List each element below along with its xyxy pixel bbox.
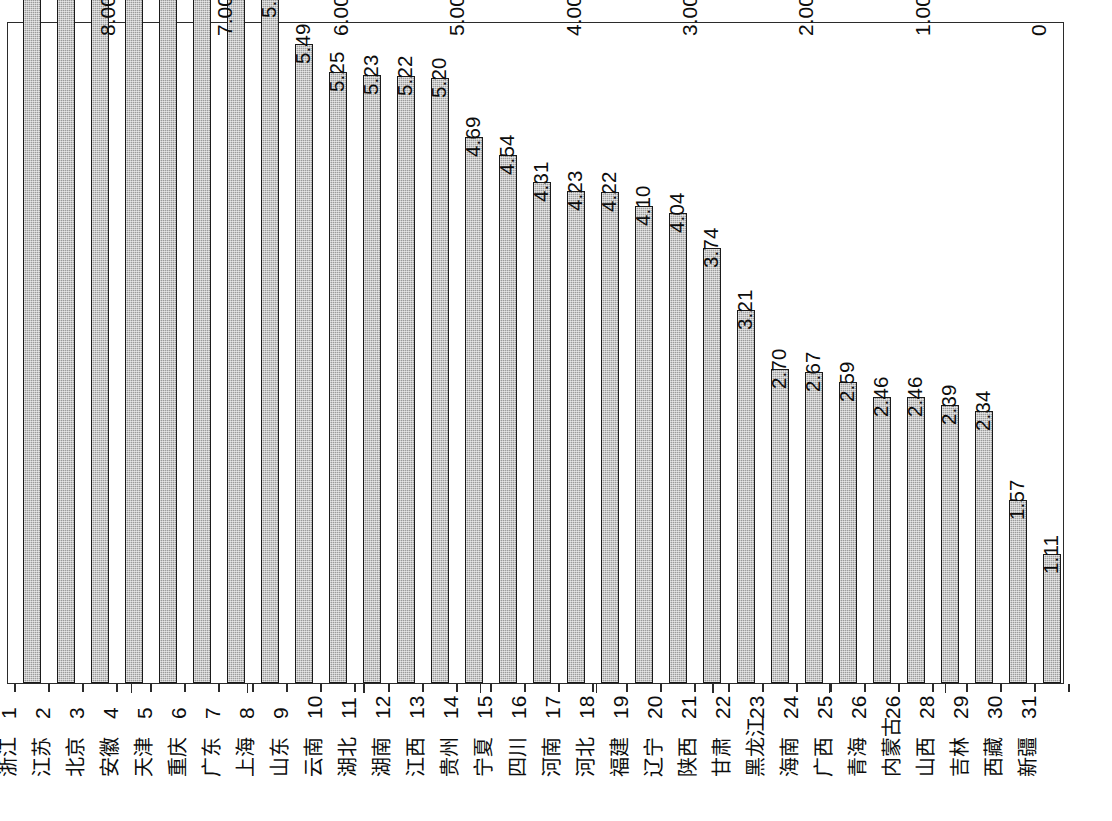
value-axis-tick-dash (829, 684, 831, 693)
category-rank-label: 21 (677, 696, 701, 719)
category-tick (490, 684, 492, 692)
category-rank-label: 5 (133, 707, 157, 719)
value-axis-label: 1.00 (911, 0, 935, 36)
category-tick (456, 684, 458, 692)
category-tick (762, 684, 764, 692)
category-rank-label: 22 (711, 696, 735, 719)
category-name-label: 辽宁 (638, 737, 667, 777)
category-name-label: 湖南 (366, 737, 395, 777)
category-rank-label: 12 (371, 696, 395, 719)
bar-value-label: 5.89 (257, 0, 281, 18)
category-name-label: 西藏 (978, 737, 1007, 777)
category-rank-label: 20 (643, 696, 667, 719)
category-name-label: 广西 (808, 737, 837, 777)
category-tick (966, 684, 968, 692)
category-tick (286, 684, 288, 692)
category-name-label: 浙江 (0, 737, 21, 777)
category-rank-label: 23 (745, 696, 769, 719)
category-name-label: 云南 (298, 737, 327, 777)
value-axis-tick-dash (363, 684, 365, 693)
category-rank-label: 30 (983, 696, 1007, 719)
category-name-label: 江苏 (26, 737, 55, 777)
category-tick (626, 684, 628, 692)
plot-area: 8.468.197.546.876.746.376.055.895.495.25… (7, 22, 1064, 684)
value-axis-tick-dash (596, 684, 598, 693)
category-tick (252, 684, 254, 692)
category-axis-ticks (7, 684, 1064, 693)
bar-chart: 8.468.197.546.876.746.376.055.895.495.25… (0, 0, 1112, 821)
value-axis-label: 4.00 (562, 0, 586, 36)
category-name-label: 江西 (400, 737, 429, 777)
value-axis-tick-dash (712, 684, 714, 693)
category-tick (694, 684, 696, 692)
category-tick (660, 684, 662, 692)
category-name-label: 安徽 (94, 737, 123, 777)
category-name-label: 河北 (570, 737, 599, 777)
value-axis-label: 7.00 (213, 0, 237, 36)
category-name-label: 海南 (774, 737, 803, 777)
category-name-label: 重庆 (162, 737, 191, 777)
value-axis-label: 2.00 (794, 0, 818, 36)
category-name-label: 贵州 (434, 737, 463, 777)
category-tick (592, 684, 594, 692)
category-rank-label: 10 (303, 696, 327, 719)
category-tick (422, 684, 424, 692)
value-axis-tick-dash (480, 684, 482, 693)
category-name-label: 新疆 (1012, 737, 1041, 777)
category-rank-label: 1 (0, 707, 21, 719)
value-axis-tick-dash (247, 684, 249, 693)
category-tick (830, 684, 832, 692)
category-name-label: 北京 (60, 737, 89, 777)
category-rank-label: 18 (575, 696, 599, 719)
category-tick (184, 684, 186, 692)
category-rank-label: 11 (337, 697, 361, 719)
category-rank-label: 28 (915, 696, 939, 719)
category-rank-label: 17 (541, 696, 565, 719)
category-name-label: 福建 (604, 737, 633, 777)
category-name-label: 四川 (502, 737, 531, 777)
category-tick (116, 684, 118, 692)
category-rank-label: 19 (609, 696, 633, 719)
category-tick (1068, 684, 1070, 692)
value-axis-label: 0 (1027, 24, 1051, 36)
category-name-label: 山西 (910, 737, 939, 777)
category-tick (728, 684, 730, 692)
category-tick (320, 684, 322, 692)
category-tick (898, 684, 900, 692)
category-tick (14, 684, 16, 692)
category-rank-label: 3 (65, 707, 89, 719)
value-axis-ticks (8, 23, 1065, 683)
value-axis-label: 8.00 (96, 0, 120, 36)
category-rank-label: 2 (31, 707, 55, 719)
category-name-label: 广东 (196, 737, 225, 777)
category-rank-label: 31 (1017, 696, 1041, 719)
category-tick (354, 684, 356, 692)
category-name-label: 甘肃 (706, 737, 735, 777)
value-axis-label: 6.00 (329, 0, 353, 36)
value-axis-label: 3.00 (678, 0, 702, 36)
category-tick (932, 684, 934, 692)
category-name-label: 黑龙江 (740, 717, 769, 777)
category-rank-label: 24 (779, 696, 803, 719)
value-axis-label: 5.00 (445, 0, 469, 36)
category-tick (1034, 684, 1036, 692)
category-rank-label: 25 (813, 696, 837, 719)
category-tick (150, 684, 152, 692)
category-rank-label: 6 (167, 707, 191, 719)
value-axis-tick-dash (131, 684, 133, 693)
category-name-label: 吉林 (944, 737, 973, 777)
category-tick (864, 684, 866, 692)
category-tick (796, 684, 798, 692)
category-tick (388, 684, 390, 692)
value-axis-label: 9.00 (0, 0, 4, 36)
category-rank-label: 9 (269, 707, 293, 719)
category-name-label: 天津 (128, 737, 157, 777)
category-name-label: 湖北 (332, 737, 361, 777)
category-tick (82, 684, 84, 692)
category-rank-label: 8 (235, 707, 259, 719)
category-name-label: 陕西 (672, 737, 701, 777)
category-tick (1000, 684, 1002, 692)
category-tick (218, 684, 220, 692)
category-rank-label: 13 (405, 696, 429, 719)
category-name-label: 内蒙古 (876, 717, 905, 777)
